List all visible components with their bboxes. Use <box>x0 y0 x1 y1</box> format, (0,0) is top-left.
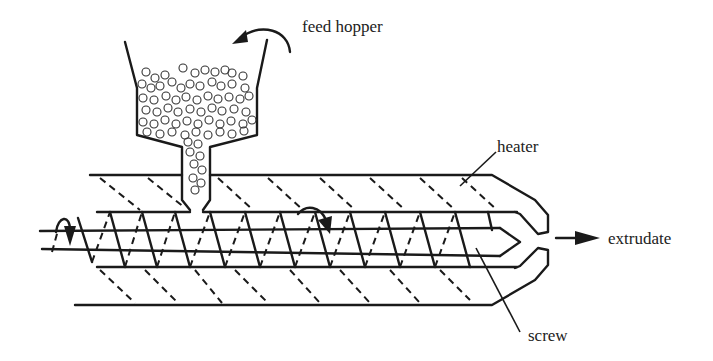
label-extrudate: extrudate <box>608 229 671 248</box>
screw-leader-line <box>476 248 520 332</box>
heater-leader-line <box>460 152 496 186</box>
feed-hopper <box>125 30 290 210</box>
label-screw: screw <box>528 326 568 345</box>
label-feed-hopper: feed hopper <box>302 17 383 36</box>
screw <box>40 208 520 267</box>
inner-barrel <box>97 212 517 267</box>
extrudate-arrow-icon <box>556 231 600 245</box>
label-heater: heater <box>497 137 539 156</box>
heater-barrel <box>75 175 548 305</box>
extruder-diagram: feed hopper heater extrudate screw <box>0 0 713 361</box>
